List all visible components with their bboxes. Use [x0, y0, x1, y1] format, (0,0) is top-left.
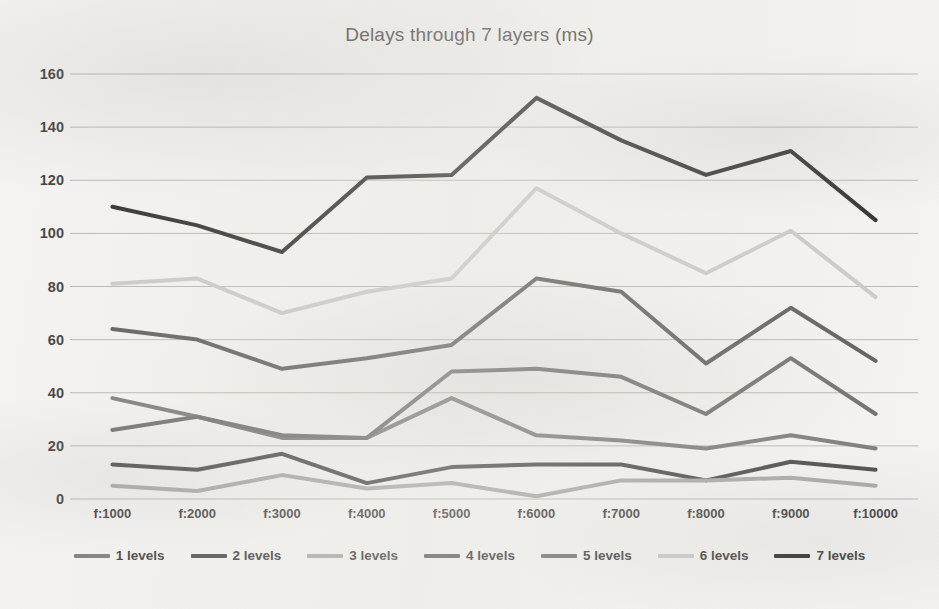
chart-legend: 1 levels2 levels3 levels4 levels5 levels… — [0, 548, 939, 563]
legend-item[interactable]: 1 levels — [74, 548, 165, 563]
legend-item[interactable]: 2 levels — [191, 548, 282, 563]
x-axis-tick-label: f:2000 — [178, 506, 216, 521]
x-axis-tick-label: f:9000 — [772, 506, 810, 521]
x-axis-tick-label: f:8000 — [687, 506, 725, 521]
x-axis-tick-label: f:1000 — [94, 506, 132, 521]
x-axis-tick-label: f:10000 — [853, 506, 898, 521]
x-axis-tick-label: f:6000 — [518, 506, 556, 521]
legend-label: 2 levels — [233, 548, 282, 563]
legend-color-swatch — [541, 554, 577, 558]
legend-color-swatch — [191, 554, 227, 558]
legend-label: 3 levels — [349, 548, 398, 563]
legend-label: 1 levels — [116, 548, 165, 563]
legend-color-swatch — [658, 554, 694, 558]
legend-item[interactable]: 6 levels — [658, 548, 749, 563]
legend-color-swatch — [307, 554, 343, 558]
legend-color-swatch — [424, 554, 460, 558]
series-lines — [112, 98, 875, 496]
x-axis-tick-label: f:3000 — [263, 506, 301, 521]
legend-color-swatch — [774, 554, 810, 558]
legend-label: 5 levels — [583, 548, 632, 563]
legend-item[interactable]: 5 levels — [541, 548, 632, 563]
legend-label: 4 levels — [466, 548, 515, 563]
legend-color-swatch — [74, 554, 110, 558]
series-line — [112, 475, 875, 496]
x-axis-tick-label: f:7000 — [602, 506, 640, 521]
legend-item[interactable]: 7 levels — [774, 548, 865, 563]
legend-label: 6 levels — [700, 548, 749, 563]
series-line — [112, 188, 875, 313]
x-axis-tick-label: f:5000 — [433, 506, 471, 521]
legend-item[interactable]: 3 levels — [307, 548, 398, 563]
series-line — [112, 98, 875, 252]
legend-item[interactable]: 4 levels — [424, 548, 515, 563]
legend-label: 7 levels — [816, 548, 865, 563]
line-chart: Delays through 7 layers (ms) 02040608010… — [0, 0, 939, 609]
x-axis-tick-label: f:4000 — [348, 506, 386, 521]
